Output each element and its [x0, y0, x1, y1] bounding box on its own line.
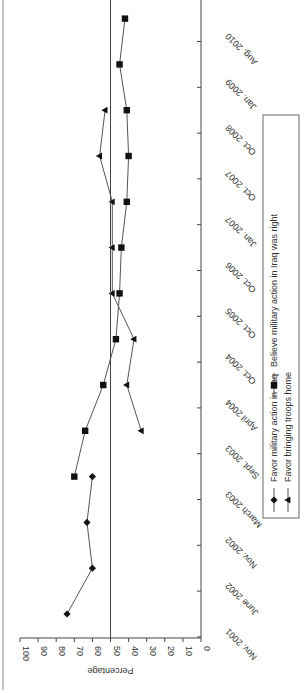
category-label: Nov. 2002 [223, 535, 259, 571]
value-tick-label: 30 [148, 646, 158, 656]
value-tick-label: 0 [202, 646, 212, 651]
y-axis-title: Percentage [87, 666, 133, 676]
square-marker [124, 107, 130, 113]
plot-area [63, 15, 143, 617]
legend-label: Favor bringing troops home [283, 372, 293, 482]
category-label: Aug. 2010 [223, 31, 259, 67]
diamond-marker [89, 473, 96, 480]
category-label: Sept. 2003 [223, 443, 261, 481]
value-tick-label: 70 [75, 646, 85, 656]
square-marker [271, 382, 277, 388]
square-marker [116, 61, 122, 67]
value-tick-label: 90 [39, 646, 49, 656]
triangle-marker [96, 153, 102, 160]
line-chart: 0102030405060708090100PercentageNov. 200… [0, 0, 307, 693]
legend: Favor military action in IraqFavor bring… [263, 115, 299, 518]
square-marker [100, 382, 106, 388]
axes: 0102030405060708090100PercentageNov. 200… [20, 0, 264, 676]
diamond-marker [83, 519, 90, 526]
category-label: Nov. 2001 [223, 627, 259, 663]
triangle-marker [109, 244, 115, 251]
category-label: June 2002 [223, 581, 260, 618]
category-label: Oct. 2004 [223, 352, 258, 387]
square-marker [125, 153, 131, 159]
square-marker [113, 336, 119, 342]
chart-container: 0102030405060708090100PercentageNov. 200… [0, 0, 307, 693]
square-marker [71, 473, 77, 479]
series-line [67, 477, 92, 614]
value-tick-label: 100 [21, 646, 31, 661]
category-label: Jan. 2007 [223, 214, 258, 249]
value-tick-label: 40 [130, 646, 140, 656]
value-tick-label: 50 [112, 646, 122, 656]
diamond-marker [89, 565, 96, 572]
triangle-marker [109, 290, 115, 297]
value-tick-label: 10 [184, 646, 194, 656]
square-marker [82, 428, 88, 434]
category-label: April 2004 [223, 398, 259, 434]
category-label: Oct. 2005 [223, 306, 258, 341]
diamond-marker [63, 610, 70, 617]
category-label: Jan. 2009 [223, 77, 258, 112]
category-label: Oct. 2007 [223, 169, 258, 204]
value-tick-label: 20 [166, 646, 176, 656]
square-marker [124, 199, 130, 205]
square-marker [122, 15, 128, 21]
legend-label: Believe military action in Iraq was righ… [269, 213, 279, 367]
category-label: Oct. 2006 [223, 260, 258, 295]
value-tick-label: 60 [93, 646, 103, 656]
square-marker [118, 244, 124, 250]
category-label: March 2003 [223, 489, 264, 530]
category-label: Oct. 2008 [223, 123, 258, 158]
value-tick-label: 80 [57, 646, 67, 656]
triangle-marker [123, 382, 129, 389]
square-marker [116, 290, 122, 296]
